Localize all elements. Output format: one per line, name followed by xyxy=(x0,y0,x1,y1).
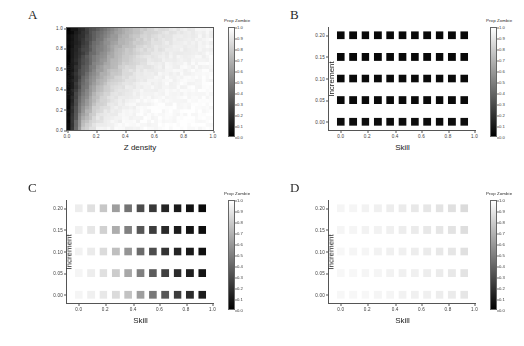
colorbar-tick: 0.4 xyxy=(237,91,243,96)
plot-area-b: 0.20 0.15 0.10 0.05 0.00 0.0 0.2 0.4 0.6… xyxy=(328,27,476,131)
colorbar-tick: 0.1 xyxy=(499,124,505,129)
panel-letter-d: D xyxy=(290,181,299,194)
xaxis-label-d: Skill xyxy=(329,316,476,325)
plot-area-a: 1.0 0.8 0.6 0.4 0.2 0.0 0.0 0.2 0.4 0.6 … xyxy=(66,27,214,131)
colorbar-c: Prop Zombie 1.00.90.80.70.60.50.40.30.20… xyxy=(228,200,258,310)
plot-area-d: 0.20 0.15 0.10 0.05 0.00 0.0 0.2 0.4 0.6… xyxy=(328,200,476,304)
heatmap-b xyxy=(329,27,476,130)
colorbar-tick: 0.4 xyxy=(499,264,505,269)
colorbar-tick: 0.9 xyxy=(237,209,243,214)
colorbar-tick: 0.7 xyxy=(237,231,243,236)
colorbar-tick: 0.4 xyxy=(237,264,243,269)
xtick-a-1: 0.2 xyxy=(93,134,100,139)
colorbar-tick: 0.9 xyxy=(499,36,505,41)
xtick-a-0: 0.0 xyxy=(64,134,71,139)
xtick-a-2: 0.4 xyxy=(122,134,129,139)
ytick-a-2: 0.6 xyxy=(56,66,63,71)
panel-letter-a: A xyxy=(28,8,37,21)
xtick-b-5: 1.0 xyxy=(471,134,478,139)
xtick-a-3: 0.6 xyxy=(151,134,158,139)
xtick-b-0: 0.0 xyxy=(337,134,344,139)
xaxis-label-a: Z density xyxy=(67,143,213,152)
colorbar-tick: 0.6 xyxy=(237,242,243,247)
colorbar-tick: 0.5 xyxy=(237,80,243,85)
colorbar-tick: 0.3 xyxy=(237,102,243,107)
colorbar-b: Prop Zombie 1.00.90.80.70.60.50.40.30.20… xyxy=(490,27,520,137)
panel-b: B 0.20 0.15 0.10 0.05 0.00 0.0 0.2 0.4 0… xyxy=(262,0,524,173)
colorbar-d: Prop Zombie 1.00.90.80.70.60.50.40.30.20… xyxy=(490,200,520,310)
ytick-c-2: 0.10 xyxy=(53,249,63,254)
ytick-b-1: 0.15 xyxy=(315,54,325,59)
colorbar-tick: 1.0 xyxy=(237,198,243,203)
xtick-d-2: 0.4 xyxy=(392,307,399,312)
ytick-b-0: 0.20 xyxy=(315,33,325,38)
colorbar-tick: 0.0 xyxy=(237,135,243,140)
xtick-d-3: 0.6 xyxy=(418,307,425,312)
ytick-a-4: 0.2 xyxy=(56,107,63,112)
colorbar-tick: 0.8 xyxy=(499,220,505,225)
colorbar-tick: 0.9 xyxy=(499,209,505,214)
ytick-a-5: 0.0 xyxy=(56,128,63,133)
yaxis-label-b: Increment xyxy=(327,39,336,119)
colorbar-tick: 0.6 xyxy=(237,69,243,74)
xaxis-label-c: Skill xyxy=(67,316,214,325)
ytick-a-3: 0.4 xyxy=(56,87,63,92)
xtick-c-3: 0.6 xyxy=(156,307,163,312)
xtick-d-4: 0.8 xyxy=(445,307,452,312)
xtick-c-1: 0.2 xyxy=(102,307,109,312)
panel-a: A 1.0 0.8 0.6 0.4 0.2 0.0 0.0 0.2 0.4 0.… xyxy=(0,0,262,173)
colorbar-tick: 0.5 xyxy=(499,253,505,258)
heatmap-a xyxy=(67,28,213,130)
ytick-a-1: 0.8 xyxy=(56,46,63,51)
colorbar-tick: 0.7 xyxy=(499,58,505,63)
colorbar-a: Prop Zombie 1.00.90.80.70.60.50.40.30.20… xyxy=(228,27,258,137)
colorbar-tick: 0.3 xyxy=(237,275,243,280)
colorbar-tick: 1.0 xyxy=(499,25,505,30)
colorbar-tick: 0.1 xyxy=(499,297,505,302)
colorbar-title-b: Prop Zombie xyxy=(486,18,512,23)
colorbar-tick: 0.2 xyxy=(499,286,505,291)
ytick-a-0: 1.0 xyxy=(56,26,63,31)
colorbar-tick: 0.3 xyxy=(499,102,505,107)
panel-letter-c: C xyxy=(28,181,37,194)
panel-c: C 0.20 0.15 0.10 0.05 0.00 0.0 0.2 0.4 0… xyxy=(0,173,262,346)
yaxis-label-a: H density xyxy=(65,39,74,119)
ytick-d-1: 0.15 xyxy=(315,227,325,232)
ytick-d-2: 0.10 xyxy=(315,249,325,254)
colorbar-tick: 0.7 xyxy=(499,231,505,236)
heatmap-d xyxy=(329,200,476,303)
ytick-c-0: 0.20 xyxy=(53,206,63,211)
panel-letter-b: B xyxy=(290,8,299,21)
figure-canvas: A 1.0 0.8 0.6 0.4 0.2 0.0 0.0 0.2 0.4 0.… xyxy=(0,0,524,346)
colorbar-tick: 0.0 xyxy=(499,308,505,313)
colorbar-tick: 0.1 xyxy=(237,297,243,302)
xaxis-label-b: Skill xyxy=(329,143,476,152)
ytick-c-3: 0.05 xyxy=(53,271,63,276)
colorbar-title-d: Prop Zombie xyxy=(486,191,512,196)
heatmap-c xyxy=(67,200,214,303)
colorbar-tick: 0.2 xyxy=(237,286,243,291)
colorbar-tick: 0.0 xyxy=(237,308,243,313)
panel-d: D 0.20 0.15 0.10 0.05 0.00 0.0 0.2 0.4 0… xyxy=(262,173,524,346)
colorbar-tick: 0.6 xyxy=(499,69,505,74)
ytick-d-0: 0.20 xyxy=(315,206,325,211)
xtick-c-0: 0.0 xyxy=(75,307,82,312)
ytick-d-4: 0.00 xyxy=(315,292,325,297)
xtick-c-4: 0.8 xyxy=(183,307,190,312)
colorbar-tick: 1.0 xyxy=(499,198,505,203)
xtick-b-4: 0.8 xyxy=(445,134,452,139)
colorbar-tick: 0.7 xyxy=(237,58,243,63)
colorbar-tick: 0.3 xyxy=(499,275,505,280)
xtick-a-4: 0.8 xyxy=(180,134,187,139)
xtick-c-5: 1.0 xyxy=(209,307,216,312)
ytick-b-2: 0.10 xyxy=(315,76,325,81)
ytick-b-3: 0.05 xyxy=(315,98,325,103)
colorbar-tick: 0.6 xyxy=(499,242,505,247)
colorbar-tick: 0.2 xyxy=(237,113,243,118)
colorbar-tick: 0.4 xyxy=(499,91,505,96)
colorbar-tick: 0.0 xyxy=(499,135,505,140)
colorbar-tick: 0.1 xyxy=(237,124,243,129)
ytick-b-4: 0.00 xyxy=(315,119,325,124)
yaxis-label-c: Increment xyxy=(65,212,74,292)
xtick-c-2: 0.4 xyxy=(130,307,137,312)
